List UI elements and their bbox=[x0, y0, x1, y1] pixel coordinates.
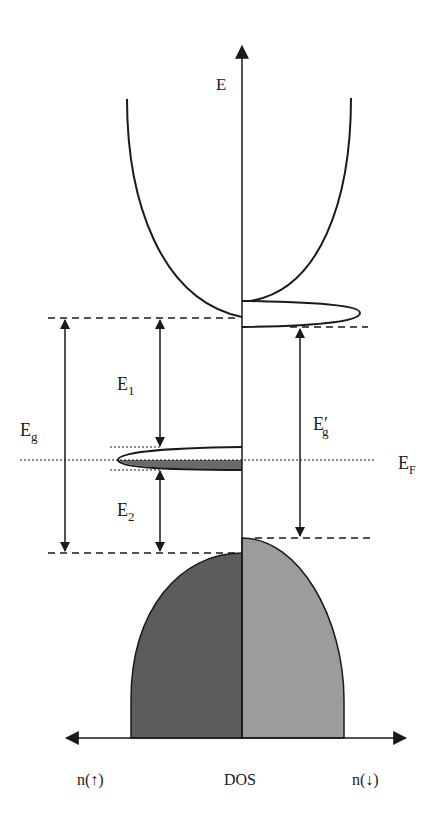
eg-label: Eg bbox=[20, 420, 38, 444]
fermi-level-label: EF bbox=[398, 453, 416, 477]
n-up-label: n(↑) bbox=[77, 771, 104, 789]
valence-band-spin-down bbox=[242, 538, 344, 738]
energy-axis-label: E bbox=[216, 75, 226, 94]
conduction-band-spin-down bbox=[250, 98, 351, 301]
dos-diagram: E Eg E1 E2 E′g EF n(↑) DOS n(↓) bbox=[0, 0, 445, 815]
egp-label: E′g bbox=[313, 414, 329, 439]
valence-band-spin-up bbox=[131, 553, 242, 738]
conduction-band-spin-up bbox=[127, 99, 242, 317]
n-down-label: n(↓) bbox=[352, 771, 379, 789]
dos-label: DOS bbox=[224, 771, 256, 788]
e1-label: E1 bbox=[117, 374, 135, 398]
e2-label: E2 bbox=[117, 500, 135, 524]
impurity-band-spin-down bbox=[242, 301, 360, 327]
